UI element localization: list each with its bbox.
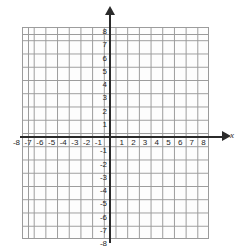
y-tick-label: -7 [93, 226, 107, 235]
y-axis-arrow-icon [105, 6, 115, 15]
y-axis-line [109, 12, 111, 243]
y-tick-label: -5 [93, 199, 107, 208]
grid-border-right [208, 27, 209, 239]
y-tick-label: -2 [93, 160, 107, 169]
y-tick-label: -1 [93, 146, 107, 155]
y-tick-label: 8 [93, 27, 107, 36]
y-tick-label: -8 [93, 239, 107, 248]
plot-area [22, 27, 209, 239]
y-tick-label: -3 [93, 173, 107, 182]
y-tick-label: 6 [93, 54, 107, 63]
major-gridlines [22, 27, 209, 239]
x-tick-label: 8 [197, 138, 211, 147]
grid-border-bottom [22, 238, 209, 239]
x-axis-label: x [230, 130, 234, 140]
y-tick-label: 2 [93, 107, 107, 116]
y-tick-label: 7 [93, 40, 107, 49]
y-tick-label: 3 [93, 93, 107, 102]
y-tick-label: 4 [93, 80, 107, 89]
y-tick-label: 5 [93, 67, 107, 76]
coordinate-plane-figure: x -8-7-6-5-4-3-2-112345678 87654321-1-2-… [0, 0, 242, 249]
y-tick-label: -6 [93, 213, 107, 222]
y-tick-label: -4 [93, 186, 107, 195]
y-tick-label: 1 [93, 120, 107, 129]
